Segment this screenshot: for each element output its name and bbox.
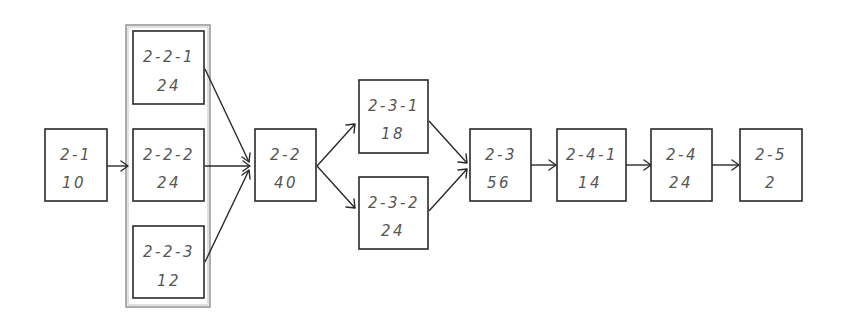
edge-2-3-1-to-2-3 xyxy=(429,121,467,163)
edge-2-4-to-2-5 xyxy=(711,160,739,170)
node-2-5: 2-5 2 xyxy=(740,129,802,201)
node-2-4: 2-4 24 xyxy=(651,129,712,201)
node-label: 2-2-2 xyxy=(143,146,195,164)
node-label: 2-5 xyxy=(755,146,787,164)
node-label: 2-4-1 xyxy=(566,146,618,164)
node-value: 14 xyxy=(578,174,602,192)
node-value: 24 xyxy=(669,174,693,192)
edge-2-2-to-2-3-2 xyxy=(317,166,355,208)
node-2-2-3: 2-2-3 12 xyxy=(133,226,204,298)
edge-2-2-3-to-2-2 xyxy=(205,170,250,262)
node-2-4-1: 2-4-1 14 xyxy=(557,129,626,201)
node-label: 2-1 xyxy=(60,146,92,164)
node-2-1: 2-1 10 xyxy=(45,129,107,201)
edge-2-3-2-to-2-3 xyxy=(429,169,467,211)
node-value: 56 xyxy=(487,174,511,192)
node-2-3: 2-3 56 xyxy=(470,129,531,201)
node-2-2: 2-2 40 xyxy=(255,129,316,201)
network-diagram: 2-1 10 2-2-1 24 2-2-2 24 2-2-3 12 2-2 40… xyxy=(0,0,845,332)
edge-2-3-to-2-4-1 xyxy=(530,160,556,170)
node-2-2-2: 2-2-2 24 xyxy=(133,129,204,201)
node-2-2-1: 2-2-1 24 xyxy=(133,31,204,104)
node-value: 10 xyxy=(62,174,86,192)
node-value: 40 xyxy=(274,174,298,192)
node-label: 2-3-1 xyxy=(368,97,420,115)
node-2-3-1: 2-3-1 18 xyxy=(359,80,428,153)
edge-2-2-2-to-2-2 xyxy=(205,161,250,171)
edge-2-4-1-to-2-4 xyxy=(626,160,651,170)
node-label: 2-3-2 xyxy=(368,194,420,212)
node-2-3-2: 2-3-2 24 xyxy=(359,177,428,249)
node-label: 2-2 xyxy=(270,146,302,164)
node-label: 2-4 xyxy=(666,146,698,164)
node-label: 2-3 xyxy=(485,146,517,164)
node-label: 2-2-3 xyxy=(143,243,195,261)
node-value: 12 xyxy=(157,272,181,290)
node-value: 24 xyxy=(157,77,181,95)
edge-2-2-1-to-2-2 xyxy=(205,69,250,162)
node-value: 24 xyxy=(157,174,181,192)
node-value: 24 xyxy=(381,222,405,240)
node-value: 18 xyxy=(381,125,405,143)
edge-2-2-to-2-3-1 xyxy=(317,124,355,166)
node-label: 2-2-1 xyxy=(143,48,195,66)
node-value: 2 xyxy=(765,174,777,192)
